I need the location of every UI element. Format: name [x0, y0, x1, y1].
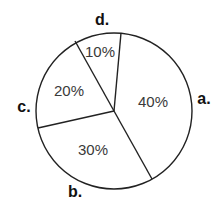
slice-a-label: a. — [197, 90, 210, 107]
slice-d-label: d. — [95, 11, 109, 28]
pie-chart: 40% 30% 20% 10% a. b. c. d. — [0, 0, 222, 212]
slice-c-label: c. — [17, 98, 30, 115]
slice-b-label: b. — [68, 183, 82, 200]
slice-d-value: 10% — [85, 43, 115, 60]
slice-b-value: 30% — [78, 141, 108, 158]
slice-c-value: 20% — [54, 82, 84, 99]
slice-a-value: 40% — [138, 93, 168, 110]
